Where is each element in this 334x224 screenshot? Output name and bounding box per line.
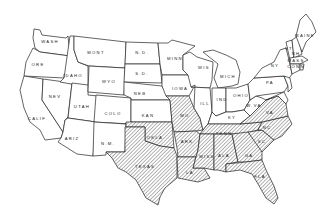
us-map: WASHORECALIFIDAHONEVUTAHARIZMONTWYOCOLON…: [0, 0, 334, 224]
state-label-sd: S.D.: [135, 71, 148, 76]
us-map-svg: WASHORECALIFIDAHONEVUTAHARIZMONTWYOCOLON…: [0, 0, 334, 224]
state-label-ind: IND: [216, 97, 227, 102]
state-label-maine: MAINE: [295, 33, 315, 38]
state-label-mont: MONT: [87, 50, 105, 55]
state-label-wis: WIS: [198, 65, 210, 70]
state-label-ariz: ARIZ: [65, 136, 80, 141]
state-label-ga: GA: [245, 153, 254, 158]
state-label-wyo: WYO: [102, 79, 116, 84]
state-label-ore: ORE: [32, 62, 45, 67]
state-label-calif: CALIF: [28, 116, 46, 121]
state-label-utah: UTAH: [74, 104, 90, 109]
state-label-nh: NH: [292, 51, 301, 56]
state-fla: [226, 160, 278, 204]
state-label-conn: CONN: [287, 64, 305, 69]
state-label-ohio: OHIO: [233, 93, 249, 98]
state-label-wash: WASH: [41, 39, 59, 44]
state-label-pa: PA: [266, 80, 274, 85]
state-label-okla: OKLA: [147, 135, 163, 140]
state-label-ny: NY: [271, 63, 279, 68]
state-label-tenn: TENN: [216, 131, 233, 136]
state-label-neb: NEB: [134, 91, 147, 96]
state-label-mass: MASS: [287, 58, 304, 63]
state-label-kan: KAN: [142, 113, 155, 118]
state-label-nev: NEV: [49, 94, 62, 99]
state-ind: [212, 88, 226, 116]
state-label-ark: ARK: [181, 139, 194, 144]
state-label-va: VA: [266, 110, 274, 115]
state-label-ill: ILL: [200, 101, 210, 106]
state-label-nd: N.D.: [135, 50, 149, 55]
state-label-texas: TEXAS: [135, 164, 155, 169]
state-label-idaho: IDAHO: [63, 73, 83, 78]
state-label-wva: W.VA: [246, 103, 261, 108]
state-label-minn: MINN: [167, 56, 183, 61]
state-label-sc: SC: [258, 139, 266, 144]
state-label-mich: MICH: [220, 74, 236, 79]
state-label-colo: COLO: [104, 111, 121, 116]
state-ark: [174, 131, 200, 157]
state-label-mo: MO: [180, 113, 189, 118]
state-label-nc: NC: [263, 125, 272, 130]
state-label-iowa: IOWA: [172, 86, 188, 91]
state-label-ala: ALA: [218, 153, 230, 158]
state-nm: [93, 122, 126, 156]
state-label-ky: KY: [228, 115, 236, 120]
state-label-la: LA: [186, 170, 194, 175]
state-label-miss: MISS: [199, 154, 214, 159]
state-label-fla: FLA: [254, 174, 266, 179]
state-kan: [131, 100, 172, 122]
state-label-nm: N.M.: [101, 141, 115, 146]
state-colo: [94, 95, 131, 124]
